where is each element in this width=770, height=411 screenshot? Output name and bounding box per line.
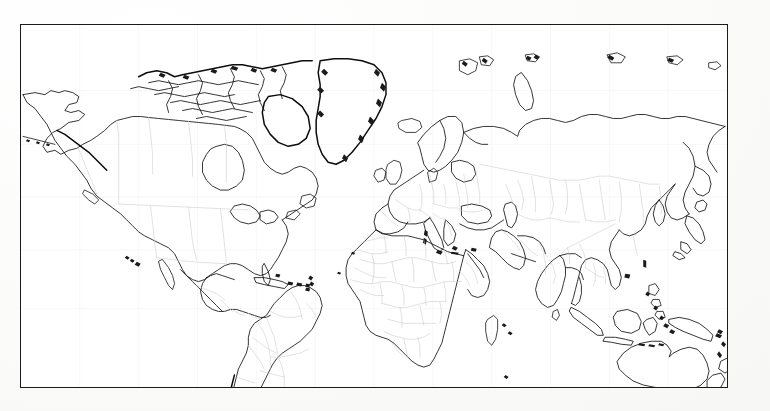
- asia: [464, 115, 725, 321]
- map-border-frame: [20, 24, 728, 388]
- japan: [673, 200, 707, 260]
- svalbard: [460, 53, 721, 75]
- novaya-zemlya: [514, 73, 534, 111]
- philippines: [645, 284, 665, 321]
- greenland: [316, 59, 386, 164]
- north-america: [23, 91, 318, 318]
- europe: [374, 116, 504, 254]
- australia: [617, 341, 709, 387]
- africa: [337, 230, 513, 367]
- iceland: [398, 118, 422, 132]
- world-map-svg: [21, 25, 727, 387]
- canadian-arctic-archipelago: [131, 61, 312, 147]
- new-zealand: [707, 357, 727, 387]
- map-page: Blank World Outline Map Scanned blank po…: [0, 0, 770, 411]
- country-borders: [77, 117, 661, 387]
- new-guinea: [669, 317, 722, 341]
